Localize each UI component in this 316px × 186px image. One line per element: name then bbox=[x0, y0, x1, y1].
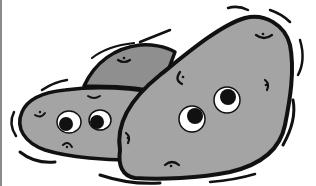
potatoes-illustration bbox=[0, 0, 316, 186]
